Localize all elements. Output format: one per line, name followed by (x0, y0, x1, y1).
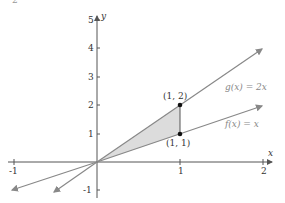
y-tick-4: 4 (88, 44, 94, 53)
y-tick-5: 5 (88, 16, 94, 25)
g-label: g(x) = 2x (225, 83, 267, 92)
y-tick-neg1: -1 (83, 186, 92, 195)
y-tick-2: 2 (88, 101, 94, 110)
y-tick-3: 3 (88, 73, 94, 82)
y-tick-1: 1 (88, 130, 94, 139)
point-1-2 (178, 103, 183, 108)
point-label-1-1: (1, 1) (166, 139, 190, 148)
point-1-1 (178, 132, 183, 137)
x-tick-1: 1 (178, 167, 184, 176)
x-axis-label: x (268, 149, 273, 158)
point-label-1-2: (1, 2) (163, 92, 187, 101)
f-label: f(x) = x (225, 120, 259, 129)
y-axis-label: y (101, 12, 106, 21)
chart-canvas (0, 0, 285, 203)
x-tick-2: 2 (261, 167, 267, 176)
x-tick-neg1: -1 (9, 167, 18, 176)
